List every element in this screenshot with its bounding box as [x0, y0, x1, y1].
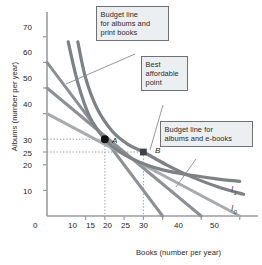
curve-i1-label: I1 [231, 184, 237, 196]
x-tick-0: 0 [33, 221, 37, 230]
x-axis-title: Books (number per year) [136, 248, 221, 257]
curve-i0-subscript: 0 [233, 209, 236, 215]
y-tick-20: 20 [23, 161, 32, 170]
curve-i0-label: I0 [231, 203, 237, 215]
x-tick-15: 15 [86, 221, 95, 230]
y-tick-10: 10 [23, 187, 32, 196]
callout-budget-print-books: Budget line for albums and print books [96, 6, 169, 41]
y-tick-70: 70 [23, 23, 32, 32]
y-tick-50: 50 [23, 74, 32, 83]
point-b-label: B [155, 146, 160, 155]
curve-i1-subscript: 1 [233, 190, 236, 196]
x-tick-20: 20 [103, 221, 112, 230]
point-B [140, 149, 147, 156]
y-tick-25: 25 [23, 149, 32, 158]
x-tick-25: 25 [121, 221, 130, 230]
callout-leader-0 [66, 54, 135, 84]
x-tick-50: 50 [210, 221, 219, 230]
x-tick-30: 30 [139, 221, 148, 230]
point-a-label: A [112, 136, 117, 145]
callout-budget-e-books: Budget line for albums and e-books [160, 121, 253, 147]
y-axis-title: Albums (number per year) [10, 37, 19, 177]
y-tick-60: 60 [23, 48, 32, 57]
y-tick-40: 40 [23, 100, 32, 109]
point-A [101, 135, 109, 143]
callout-best-affordable-point: Best affordable point [141, 56, 188, 91]
x-tick-40: 40 [174, 221, 183, 230]
chart-figure: 0 10 15 20 25 30 40 50 70 60 50 40 30 25… [0, 0, 262, 265]
y-tick-30: 30 [23, 136, 32, 145]
x-tick-10: 10 [68, 221, 77, 230]
